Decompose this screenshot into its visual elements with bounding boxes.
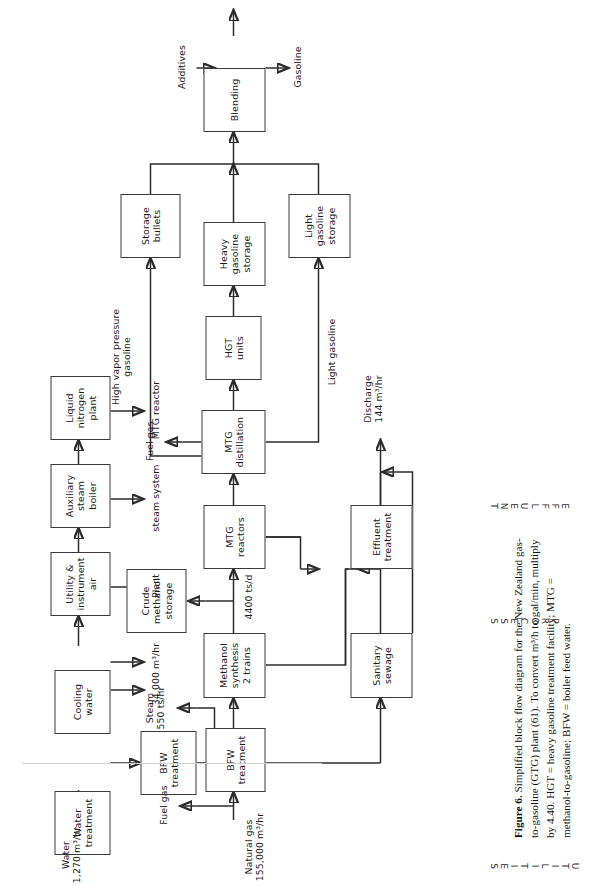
label-additives: Additives: [176, 36, 187, 98]
label-gasoline-out: Gasoline: [292, 36, 303, 98]
box-label: Auxiliary steam boiler: [63, 475, 97, 517]
box-label: Methanol synthesis 2 trains: [217, 643, 251, 689]
band-label-utilities: UTILITIES: [488, 861, 580, 870]
caption-sentence-4: feed water.: [560, 623, 572, 672]
box-storage-bullets[interactable]: Storage bullets: [120, 194, 180, 258]
label-air-to-plant: Plant: [150, 555, 161, 617]
figure-caption: Figure 6. Simplified block flow diagram …: [511, 538, 575, 838]
page-divider-rule: [22, 763, 322, 764]
box-hgt-units[interactable]: HGT units: [205, 316, 261, 380]
box-bfw-treatment-process[interactable]: BFW treatment: [205, 728, 265, 792]
box-label: Cooling water: [71, 684, 93, 720]
box-methanol-synthesis[interactable]: Methanol synthesis 2 trains: [203, 633, 265, 698]
label-natural-gas-in: Natural gas 155,000 m³/hr: [243, 810, 265, 884]
box-label: Liquid nitrogen plant: [63, 388, 97, 429]
box-label: Blending: [228, 79, 239, 122]
box-auxiliary-steam-boiler[interactable]: Auxiliary steam boiler: [50, 464, 110, 528]
box-mtg-reactors[interactable]: MTG reactors: [203, 505, 265, 569]
box-blending[interactable]: Blending: [203, 68, 265, 132]
label-discharge: Discharge 144 m³/hr: [362, 362, 384, 436]
caption-figure-number: Figure 6.: [512, 795, 524, 838]
box-light-gasoline-storage[interactable]: Light gasoline storage: [288, 194, 350, 258]
label-fuel-gas-mtg: Fuel gas: [144, 410, 155, 472]
band-label-effluent: EFFLUENT: [488, 501, 570, 510]
box-label: Effluent treatment: [370, 513, 392, 562]
box-label: HGT units: [222, 336, 244, 360]
box-sanitary-sewage[interactable]: Sanitary sewage: [350, 633, 412, 698]
box-label: MTG distillation: [222, 417, 244, 467]
box-label: Heavy gasoline storage: [217, 234, 251, 275]
box-label: Utility & instrument air: [63, 557, 97, 610]
box-liquid-nitrogen-plant[interactable]: Liquid nitrogen plant: [50, 376, 110, 440]
box-label: Sanitary sewage: [370, 645, 392, 685]
box-utility-instrument-air[interactable]: Utility & instrument air: [50, 552, 110, 616]
box-label: BFW treatment: [224, 736, 246, 785]
box-label: Light gasoline storage: [302, 206, 336, 247]
label-high-vapor-pressure-gasoline: High vapor pressure gasoline: [110, 294, 132, 420]
box-label: MTG reactors: [223, 517, 245, 557]
label-fuel-gas-bfw: Fuel gas: [158, 774, 169, 836]
box-mtg-distillation[interactable]: MTG distillation: [201, 410, 265, 474]
box-label: Storage bullets: [139, 207, 161, 245]
box-cooling-water[interactable]: Cooling water: [54, 670, 110, 734]
box-effluent-treatment[interactable]: Effluent treatment: [350, 505, 412, 569]
caption-sentence-3: HGT = heavy gasoline treatment facility;…: [544, 578, 572, 838]
label-water-in: Water 1,270 m³/hr: [60, 824, 82, 886]
label-steam-550: Steam 550 ts/hr: [144, 677, 166, 739]
label-methanol-rate: 4400 ts/d: [243, 566, 254, 628]
box-heavy-gasoline-storage[interactable]: Heavy gasoline storage: [203, 222, 265, 286]
label-light-gasoline: Light gasoline: [326, 304, 337, 400]
